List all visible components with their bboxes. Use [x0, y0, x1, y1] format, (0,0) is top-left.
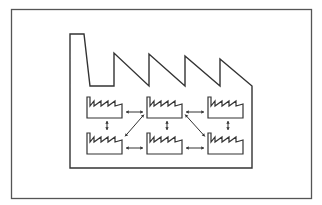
connection-arrow-u4-u5 — [126, 146, 143, 149]
factory-units — [87, 97, 243, 154]
connection-arrow-u5-u6 — [186, 146, 204, 149]
factory-unit-u2 — [147, 97, 182, 118]
connection-arrow-u2-u3 — [186, 110, 204, 113]
diagram-canvas — [0, 0, 322, 205]
connection-arrow-u1-u4 — [105, 121, 108, 130]
connection-arrow-u3-u6 — [226, 121, 229, 130]
factory-unit-u6 — [208, 133, 243, 154]
connection-arrows — [105, 110, 229, 149]
factory-unit-u5 — [147, 133, 182, 154]
factory-unit-u4 — [87, 133, 122, 154]
factory-unit-u1 — [87, 97, 122, 118]
connection-arrow-u2-u6 — [185, 115, 205, 137]
connection-arrow-u4-u2 — [125, 115, 144, 137]
factory-unit-u3 — [208, 97, 243, 118]
connection-arrow-u2-u5 — [165, 121, 168, 130]
connection-arrow-u1-u2 — [126, 110, 143, 113]
